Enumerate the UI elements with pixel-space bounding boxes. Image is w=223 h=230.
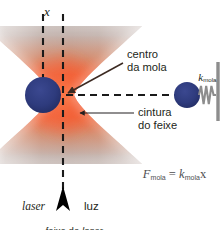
trapped-bead-left [25, 77, 61, 113]
beam-direction-arrowhead [56, 186, 70, 211]
label-k-mola: kmola [186, 58, 216, 97]
k-mola-subscript: mola [203, 76, 216, 83]
formula-lhs-symbol: F [143, 167, 151, 181]
axis-label-x: x [44, 4, 50, 19]
formula-rhs-subscript: mola [185, 173, 200, 180]
label-centro-da-mola: centro da mola [127, 48, 167, 74]
caption-italic-laser: laser [82, 225, 103, 230]
caption-prefix: feixe de [46, 225, 82, 230]
caption-feixe-de-laser: feixe de laser [35, 214, 103, 230]
formula-f-mola: Fmola=kmolax [128, 152, 206, 196]
label-luz: luz [84, 200, 99, 214]
label-cintura-do-feixe: cintura do feixe [138, 106, 177, 132]
label-laser: laser [22, 200, 45, 214]
formula-rhs-variable: x [200, 167, 206, 181]
formula-lhs-subscript: mola [151, 173, 166, 180]
formula-equals-sign: = [166, 167, 179, 181]
figure-root: centro da mola cintura do feixe x kmola … [0, 0, 223, 230]
